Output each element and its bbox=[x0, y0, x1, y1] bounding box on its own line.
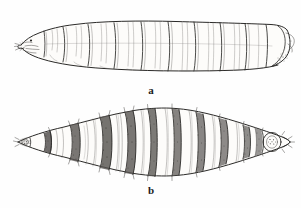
illustration-plate: a b bbox=[0, 0, 301, 208]
figure-b-dorsal-larva bbox=[0, 0, 301, 208]
figure-a-caption: a bbox=[139, 84, 163, 96]
figure-b-caption: b bbox=[139, 184, 163, 196]
figure-b-group bbox=[14, 104, 295, 181]
